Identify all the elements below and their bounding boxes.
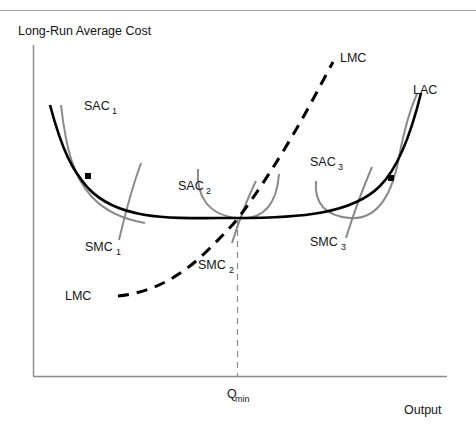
- sac1-label-sub: 1: [112, 106, 117, 116]
- sac1-curve: [61, 105, 145, 223]
- smc3-label-sub: 3: [341, 242, 346, 252]
- qmin-label-sub: min: [235, 394, 250, 404]
- chart-title: Long-Run Average Cost: [18, 24, 152, 38]
- sac1-label: SAC: [84, 99, 110, 113]
- x-axis-label: Output: [404, 403, 442, 417]
- smc1-line: [119, 163, 141, 240]
- sac3-label-sub: 3: [338, 162, 343, 172]
- smc1-label: SMC: [85, 240, 113, 254]
- lac-label: LAC: [413, 83, 437, 97]
- sac3-label: SAC: [310, 155, 336, 169]
- smc2-label: SMC: [198, 258, 226, 272]
- sac2-label: SAC: [178, 179, 204, 193]
- diagram-canvas: Long-Run Average Cost SAC 1 SAC 2 SAC 3 …: [0, 0, 476, 428]
- lmc-top-label: LMC: [340, 51, 366, 65]
- smc1-label-sub: 1: [116, 247, 121, 257]
- lmc-bottom-label: LMC: [65, 289, 91, 303]
- smc3-line: [346, 167, 372, 238]
- lrac-diagram: Long-Run Average Cost SAC 1 SAC 2 SAC 3 …: [0, 0, 476, 428]
- tangency-marker-sac3: [388, 175, 394, 181]
- sac2-label-sub: 2: [206, 186, 211, 196]
- smc3-label: SMC: [310, 235, 338, 249]
- smc2-label-sub: 2: [229, 265, 234, 275]
- tangency-marker-sac1: [85, 173, 91, 179]
